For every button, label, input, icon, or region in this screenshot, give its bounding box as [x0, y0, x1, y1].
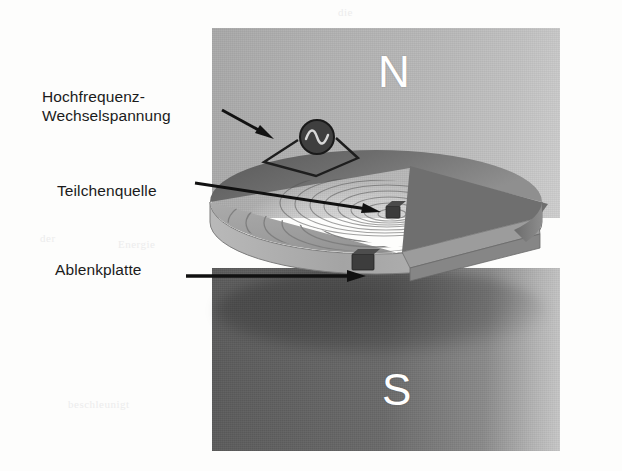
magnet-pole-south-letter: S [382, 368, 411, 412]
figure-canvas: dieZyklotronlichenTeilchenderEnergiebesc… [0, 0, 622, 471]
scan-artifact-text: beschleunigt [68, 398, 130, 410]
label-teilchenquelle: Teilchenquelle [57, 182, 157, 201]
leader-arrow-ablenkplatte [186, 266, 371, 286]
scan-artifact-text: der [40, 232, 56, 244]
label-hochfrequenz-wechselspannung: Hochfrequenz- Wechselspannung [42, 88, 171, 126]
particle-source-block [386, 206, 400, 218]
scan-artifact-text: Energie [118, 238, 156, 250]
leader-arrow-hochfrequenz [222, 106, 282, 144]
particle-source-top [386, 201, 406, 206]
leader-arrow-teilchenquelle [195, 182, 387, 216]
scan-artifact-text: die [338, 6, 353, 18]
label-ablenkplatte: Ablenkplatte [55, 261, 142, 280]
magnet-pole-north-letter: N [378, 50, 410, 94]
